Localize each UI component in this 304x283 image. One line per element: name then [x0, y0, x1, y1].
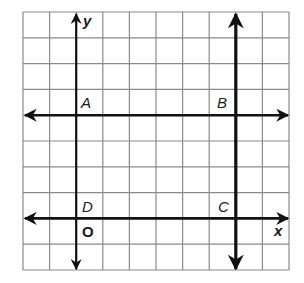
point-label-d: D [82, 198, 93, 215]
point-label-a: A [80, 94, 91, 111]
origin-label: O [82, 223, 94, 240]
x-axis-label: x [273, 222, 283, 239]
point-label-b: B [217, 94, 227, 111]
y-axis-label: y [82, 12, 92, 29]
labels: y x O A B C D [80, 12, 283, 240]
coordinate-grid-figure: y x O A B C D [0, 0, 304, 283]
point-label-c: C [218, 198, 229, 215]
grid-lines [23, 12, 289, 270]
grid-svg: y x O A B C D [0, 0, 304, 283]
